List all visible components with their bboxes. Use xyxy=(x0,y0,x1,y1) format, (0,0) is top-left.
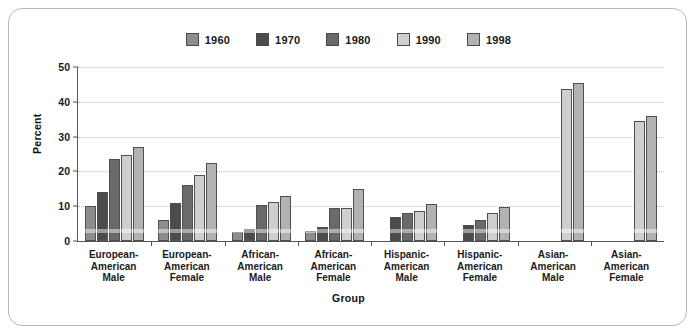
bar-1970 xyxy=(317,227,328,241)
x-category-label-line: Hispanic- xyxy=(443,249,516,261)
legend-entry-1970: 1970 xyxy=(256,33,300,46)
x-axis-category-labels: European-AmericanMaleEuropean-AmericanFe… xyxy=(77,249,663,284)
bar-group xyxy=(518,67,591,241)
bar-1960 xyxy=(85,206,96,241)
bar-group xyxy=(298,67,371,241)
legend-swatch-icon xyxy=(186,33,199,46)
x-tick-mark xyxy=(298,241,299,246)
bar-1998 xyxy=(426,204,437,241)
bar-1990 xyxy=(268,202,279,241)
bar-group xyxy=(151,67,224,241)
bar-1980 xyxy=(329,208,340,241)
legend-label: 1990 xyxy=(416,34,441,46)
bar-1998 xyxy=(133,147,144,241)
x-tick-mark xyxy=(444,241,445,246)
x-category-label: European-AmericanMale xyxy=(77,249,150,284)
bar-1998 xyxy=(353,189,364,241)
x-category-label-line: Male xyxy=(370,272,443,284)
bar-groups xyxy=(78,67,664,241)
y-tick-label: 0 xyxy=(64,235,70,247)
y-tick-label: 50 xyxy=(58,61,70,73)
bar-group xyxy=(78,67,151,241)
bar-1970 xyxy=(463,225,474,241)
legend-swatch-icon xyxy=(397,33,410,46)
legend-label: 1998 xyxy=(486,34,511,46)
x-category-label-line: Asian- xyxy=(590,249,663,261)
x-category-label-line: Male xyxy=(224,272,297,284)
bar-1998 xyxy=(646,116,657,241)
y-axis-title: Percent xyxy=(31,113,43,154)
bar-group xyxy=(371,67,444,241)
legend-entry-1980: 1980 xyxy=(326,33,370,46)
bar-1980 xyxy=(475,220,486,241)
legend-entry-1998: 1998 xyxy=(467,33,511,46)
x-category-label-line: Female xyxy=(590,272,663,284)
x-tick-mark xyxy=(225,241,226,246)
bar-1980 xyxy=(109,159,120,241)
bar-1990 xyxy=(414,211,425,241)
bar-1980 xyxy=(182,185,193,241)
y-tick-label: 30 xyxy=(58,131,70,143)
x-category-label-line: Hispanic- xyxy=(370,249,443,261)
x-tick-mark xyxy=(591,241,592,246)
legend-entry-1990: 1990 xyxy=(397,33,441,46)
x-category-label: African-AmericanFemale xyxy=(297,249,370,284)
bar-1990 xyxy=(121,155,132,241)
bar-group xyxy=(444,67,517,241)
x-category-label-line: American xyxy=(517,261,590,273)
x-tick-mark xyxy=(371,241,372,246)
legend-swatch-icon xyxy=(467,33,480,46)
legend-label: 1960 xyxy=(205,34,230,46)
x-category-label-line: Male xyxy=(517,272,590,284)
x-axis-title: Group xyxy=(9,292,688,304)
bar-1960 xyxy=(232,232,243,241)
bar-1980 xyxy=(402,213,413,241)
bar-1998 xyxy=(206,163,217,241)
x-category-label-line: African- xyxy=(297,249,370,261)
x-category-label-line: American xyxy=(224,261,297,273)
bar-1970 xyxy=(97,192,108,241)
x-category-label-line: European- xyxy=(150,249,223,261)
legend-swatch-icon xyxy=(326,33,339,46)
x-category-label: African-AmericanMale xyxy=(224,249,297,284)
legend-label: 1970 xyxy=(275,34,300,46)
bar-group xyxy=(591,67,664,241)
bar-1990 xyxy=(634,121,645,241)
bar-1998 xyxy=(573,83,584,241)
y-tick-label: 10 xyxy=(58,200,70,212)
y-tick-label: 40 xyxy=(58,96,70,108)
bar-1998 xyxy=(280,196,291,241)
bar-1990 xyxy=(561,89,572,241)
x-category-label-line: Female xyxy=(297,272,370,284)
x-category-label-line: Female xyxy=(443,272,516,284)
bar-group xyxy=(225,67,298,241)
legend-swatch-icon xyxy=(256,33,269,46)
bar-1960 xyxy=(305,231,316,241)
x-category-label-line: American xyxy=(370,261,443,273)
x-category-label: Asian-AmericanMale xyxy=(517,249,590,284)
x-category-label: Hispanic-AmericanFemale xyxy=(443,249,516,284)
x-category-label-line: European- xyxy=(77,249,150,261)
plot-area: 01020304050 xyxy=(77,67,664,242)
bar-1960 xyxy=(158,220,169,241)
bar-1990 xyxy=(194,175,205,241)
x-category-label-line: African- xyxy=(224,249,297,261)
chart-figure-frame: 19601970198019901998 Percent 01020304050… xyxy=(8,8,687,326)
x-category-label-line: American xyxy=(297,261,370,273)
x-tick-mark xyxy=(518,241,519,246)
legend-entry-1960: 1960 xyxy=(186,33,230,46)
legend-label: 1980 xyxy=(345,34,370,46)
bar-1990 xyxy=(487,213,498,241)
x-category-label: European-AmericanFemale xyxy=(150,249,223,284)
x-category-label: Hispanic-AmericanMale xyxy=(370,249,443,284)
x-category-label-line: American xyxy=(150,261,223,273)
chart-legend: 19601970198019901998 xyxy=(9,33,688,46)
x-category-label-line: American xyxy=(77,261,150,273)
y-tick-label: 20 xyxy=(58,165,70,177)
x-category-label-line: Male xyxy=(77,272,150,284)
bar-1990 xyxy=(341,208,352,241)
bar-1970 xyxy=(390,217,401,241)
x-category-label-line: Asian- xyxy=(517,249,590,261)
bar-1970 xyxy=(244,229,255,241)
x-category-label-line: American xyxy=(590,261,663,273)
